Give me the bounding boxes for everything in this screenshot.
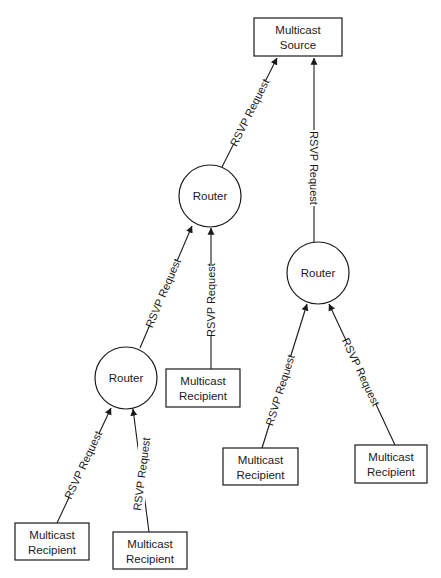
node-label-line1: Multicast <box>238 454 284 466</box>
node-label-line2: Recipient <box>179 390 228 402</box>
edge-router-top-to-source: RSVP Request <box>222 58 277 167</box>
node-recipient-mid: Multicast Recipient <box>166 369 240 407</box>
edge-router-left-to-router-top: RSVP Request <box>140 226 192 348</box>
node-recipient-right-right: Multicast Recipient <box>355 445 427 483</box>
node-multicast-source: Multicast Source <box>254 18 342 56</box>
node-label-line1: Multicast <box>368 451 414 463</box>
node-label-line2: Recipient <box>367 466 416 478</box>
edge-recipient-right-left-to-router-right: RSVP Request <box>262 304 307 448</box>
edge-router-right-to-source: RSVP Request <box>307 58 321 243</box>
edge-label: RSVP Request <box>228 77 272 148</box>
node-recipient-right-left: Multicast Recipient <box>223 448 298 485</box>
edge-label: RSVP Request <box>205 263 217 337</box>
node-router-left: Router <box>95 347 157 409</box>
edge-label: RSVP Request <box>131 437 152 512</box>
edge-label: RSVP Request <box>308 131 320 205</box>
node-label-line2: Source <box>280 39 316 51</box>
node-label-line1: Multicast <box>180 375 226 387</box>
node-label-line2: Recipient <box>237 469 286 481</box>
node-label-line1: Multicast <box>275 24 321 36</box>
edge-recipient-mid-to-router-top: RSVP Request <box>204 228 218 369</box>
router-label: Router <box>109 372 144 384</box>
edge-recipient-bottom-left-to-router-left: RSVP Request <box>57 408 111 523</box>
edge-label: RSVP Request <box>263 353 297 427</box>
node-recipient-bottom-left: Multicast Recipient <box>15 523 89 560</box>
node-label-line1: Multicast <box>29 529 75 541</box>
router-label: Router <box>301 267 336 279</box>
edge-recipient-right-right-to-router-right: RSVP Request <box>329 304 395 445</box>
node-label-line2: Recipient <box>28 544 77 556</box>
node-recipient-bottom-mid: Multicast Recipient <box>113 532 187 569</box>
edge-recipient-bottom-mid-to-router-left: RSVP Request <box>130 409 153 532</box>
rsvp-multicast-diagram: RSVP Request RSVP Request RSVP Request R… <box>0 0 441 578</box>
edge-label: RSVP Request <box>143 257 183 330</box>
node-router-right: Router <box>287 242 349 304</box>
router-label: Router <box>193 190 228 202</box>
edge-label: RSVP Request <box>340 336 382 408</box>
node-router-top: Router <box>179 165 241 227</box>
edge-label: RSVP Request <box>62 429 104 501</box>
node-label-line1: Multicast <box>127 538 173 550</box>
node-label-line2: Recipient <box>126 553 175 565</box>
